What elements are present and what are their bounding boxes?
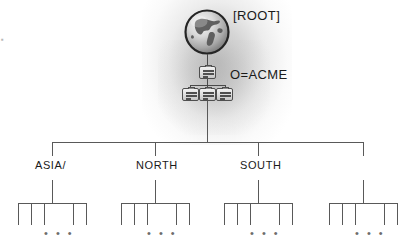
leaf-bus-4 (329, 203, 397, 204)
leaf-tick-1-4 (73, 203, 74, 225)
branch-bus (52, 142, 364, 143)
leaf-ellipsis-4: • • • (355, 227, 385, 239)
leaf-tick-2-5 (189, 203, 190, 225)
leaf-tick-3-2 (237, 203, 238, 225)
leaf-tick-3-4 (279, 203, 280, 225)
leaf-ellipsis-1: • • • (44, 227, 74, 239)
leaf-tick-1-5 (86, 203, 87, 225)
child-node-icon-1 (182, 88, 199, 101)
leaf-stem-1 (52, 180, 53, 203)
branch-label-2: NORTH (136, 159, 178, 171)
leaf-stem-4 (363, 180, 364, 203)
leaf-tick-1-1 (18, 203, 19, 225)
leaf-tick-3-3 (250, 203, 251, 225)
leaf-tick-1-3 (44, 203, 45, 225)
leaf-tick-3-5 (292, 203, 293, 225)
org-node-icon (199, 66, 216, 79)
leaf-tick-2-3 (147, 203, 148, 225)
child-node-icon-2 (199, 88, 216, 101)
branch-drop-4 (363, 142, 364, 156)
leaf-stem-2 (155, 180, 156, 203)
leaf-ellipsis-3: • • • (250, 227, 280, 239)
organization-label: O=ACME (230, 67, 288, 82)
leaf-tick-4-3 (355, 203, 356, 225)
leaf-tick-4-1 (329, 203, 330, 225)
connector-trunk (207, 101, 208, 142)
branch-label-3: SOUTH (240, 159, 282, 171)
org-node-tab (205, 65, 212, 68)
leaf-ellipsis-2: • • • (147, 227, 177, 239)
edge-artifact: ▪ (1, 36, 6, 43)
branch-drop-3 (258, 142, 259, 156)
branch-label-1: ASIA/ (35, 159, 66, 171)
leaf-stem-3 (258, 180, 259, 203)
leaf-bus-3 (224, 203, 292, 204)
leaf-tick-2-4 (176, 203, 177, 225)
leaf-tick-4-4 (384, 203, 385, 225)
leaf-tick-2-1 (121, 203, 122, 225)
child-node-icon-3 (216, 88, 233, 101)
branch-drop-1 (52, 142, 53, 156)
leaf-tick-2-2 (134, 203, 135, 225)
leaf-tick-4-2 (342, 203, 343, 225)
globe-icon (183, 8, 231, 56)
leaf-tick-3-1 (224, 203, 225, 225)
root-label: [ROOT] (233, 8, 280, 23)
branch-drop-2 (155, 142, 156, 156)
leaf-bus-2 (121, 203, 189, 204)
leaf-tick-4-5 (397, 203, 398, 225)
leaf-bus-1 (18, 203, 86, 204)
directory-tree-diagram: ▪ [ROOT] O=ACME (0, 0, 415, 243)
leaf-tick-1-2 (31, 203, 32, 225)
